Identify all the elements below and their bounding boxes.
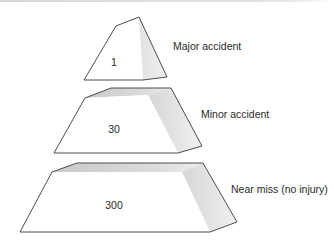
tier-major-accident: 1 Major accident xyxy=(84,17,241,80)
tier-nearmiss-top-face xyxy=(52,163,203,172)
tier-major-value: 1 xyxy=(111,56,117,68)
tier-major-label: Major accident xyxy=(173,40,241,52)
tier-major-front-face xyxy=(84,17,143,80)
tier-near-miss: 300 Near miss (no injury) xyxy=(20,163,328,232)
pyramid-svg: 1 Major accident 30 Minor accident 300 N… xyxy=(0,0,334,242)
tier-minor-accident: 30 Minor accident xyxy=(54,88,269,153)
tier-nearmiss-value: 300 xyxy=(105,199,123,211)
tier-nearmiss-label: Near miss (no injury) xyxy=(231,183,328,195)
tier-minor-value: 30 xyxy=(108,123,120,135)
accident-pyramid-diagram: 1 Major accident 30 Minor accident 300 N… xyxy=(0,0,334,242)
tier-minor-label: Minor accident xyxy=(201,108,269,120)
